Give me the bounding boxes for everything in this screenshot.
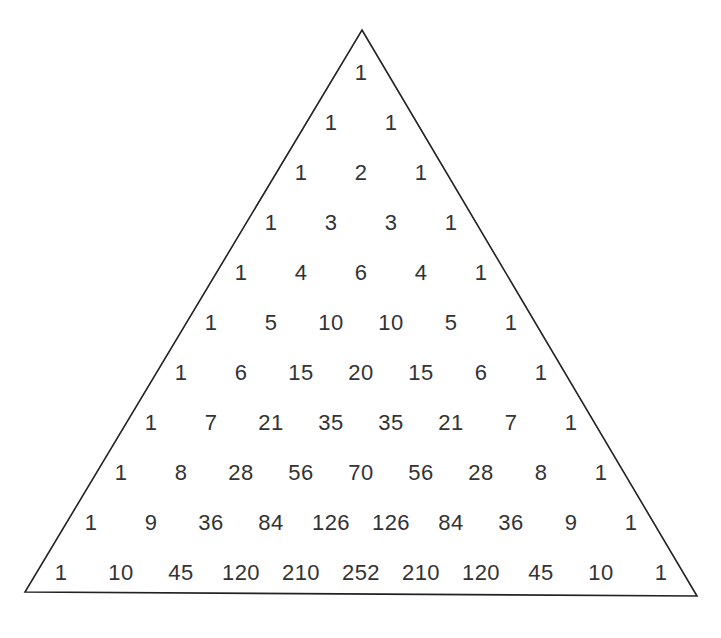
triangle-cell: 6 [355,262,368,284]
triangle-cell: 2 [355,162,368,184]
triangle-cell: 1 [475,262,488,284]
triangle-cell: 120 [462,562,500,584]
triangle-cell: 6 [475,362,488,384]
triangle-cell: 21 [258,412,283,434]
triangle-cell: 45 [168,562,193,584]
triangle-cell: 1 [535,362,548,384]
triangle-cell: 1 [295,162,308,184]
triangle-cell: 36 [198,512,223,534]
triangle-cell: 1 [115,462,128,484]
triangle-cell: 126 [312,512,350,534]
triangle-outline [0,0,721,638]
triangle-cell: 210 [402,562,440,584]
triangle-cell: 1 [145,412,158,434]
triangle-cell: 1 [265,212,278,234]
triangle-cell: 1 [205,312,218,334]
triangle-cell: 10 [108,562,133,584]
triangle-cell: 10 [588,562,613,584]
triangle-cell: 5 [445,312,458,334]
triangle-shape [25,30,697,596]
triangle-cell: 84 [258,512,283,534]
triangle-cell: 15 [408,362,433,384]
triangle-cell: 84 [438,512,463,534]
triangle-cell: 1 [445,212,458,234]
triangle-cell: 1 [385,112,398,134]
triangle-cell: 10 [318,312,343,334]
triangle-cell: 252 [342,562,380,584]
triangle-cell: 15 [288,362,313,384]
triangle-cell: 6 [235,362,248,384]
triangle-cell: 7 [205,412,218,434]
triangle-cell: 35 [318,412,343,434]
triangle-cell: 20 [348,362,373,384]
triangle-cell: 28 [468,462,493,484]
triangle-cell: 1 [415,162,428,184]
triangle-cell: 8 [175,462,188,484]
triangle-cell: 8 [535,462,548,484]
triangle-cell: 1 [655,562,668,584]
triangle-cell: 9 [565,512,578,534]
triangle-cell: 56 [288,462,313,484]
triangle-cell: 45 [528,562,553,584]
triangle-cell: 3 [385,212,398,234]
triangle-cell: 1 [235,262,248,284]
triangle-cell: 4 [295,262,308,284]
triangle-cell: 1 [175,362,188,384]
triangle-cell: 56 [408,462,433,484]
triangle-cell: 35 [378,412,403,434]
triangle-cell: 1 [625,512,638,534]
triangle-cell: 1 [505,312,518,334]
triangle-cell: 1 [355,62,368,84]
triangle-cell: 126 [372,512,410,534]
triangle-cell: 4 [415,262,428,284]
triangle-cell: 120 [222,562,260,584]
triangle-cell: 10 [378,312,403,334]
triangle-cell: 1 [55,562,68,584]
triangle-cell: 36 [498,512,523,534]
triangle-cell: 1 [565,412,578,434]
triangle-cell: 28 [228,462,253,484]
triangle-cell: 1 [595,462,608,484]
triangle-cell: 9 [145,512,158,534]
triangle-cell: 1 [325,112,338,134]
triangle-cell: 21 [438,412,463,434]
triangle-cell: 7 [505,412,518,434]
triangle-cell: 3 [325,212,338,234]
triangle-cell: 5 [265,312,278,334]
pascals-triangle-diagram: 1111211331146411510105116152015611721353… [0,0,721,638]
triangle-cell: 1 [85,512,98,534]
triangle-cell: 70 [348,462,373,484]
triangle-cell: 210 [282,562,320,584]
